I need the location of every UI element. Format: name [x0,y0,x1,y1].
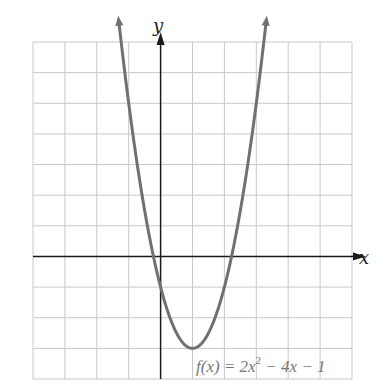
parabola-chart: y x f(x) = 2x2 − 4x − 1 [0,0,388,392]
y-axis-label: y [152,15,164,36]
x-axis-label: x [359,247,369,268]
axes [33,32,366,379]
grid [33,42,352,379]
curve-arrowheads [115,16,269,26]
function-label: f(x) = 2x2 − 4x − 1 [196,354,326,376]
